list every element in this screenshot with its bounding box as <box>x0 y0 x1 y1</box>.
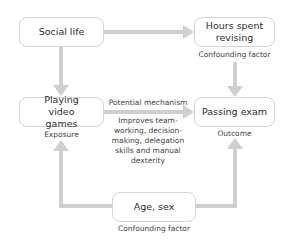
caption-confounding-age: Confounding factor <box>112 224 196 233</box>
node-age-sex: Age, sex <box>112 192 196 222</box>
node-hours-revising: Hours spent revising <box>194 17 275 47</box>
mechanism-title: Potential mechanism <box>104 98 192 108</box>
node-label: Social life <box>39 26 85 38</box>
node-label: Passing exam <box>202 106 267 118</box>
node-social-life: Social life <box>19 17 104 47</box>
caption-outcome: Outcome <box>194 129 275 138</box>
node-passing-exam: Passing exam <box>194 97 275 127</box>
mechanism-description: Improves team-working, decision-making, … <box>110 116 186 166</box>
node-label: Playing video games <box>32 94 91 130</box>
arrow-age-to-games <box>61 150 112 206</box>
caption-exposure: Exposure <box>19 130 104 139</box>
node-label: Hours spent revising <box>205 20 264 44</box>
arrow-age-to-exam <box>196 148 235 206</box>
caption-confounding-revising: Confounding factor <box>194 50 275 59</box>
node-video-games: Playing video games <box>19 97 104 127</box>
node-label: Age, sex <box>134 201 175 213</box>
